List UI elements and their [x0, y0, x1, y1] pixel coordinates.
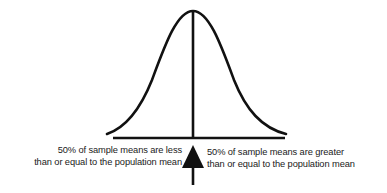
sampling-distribution-diagram: 50% of sample means are less than or equ…	[0, 0, 387, 193]
arrow-up-icon	[182, 145, 204, 185]
left-annotation-line1: 50% of sample means are less	[34, 144, 182, 156]
right-annotation-line2: than or equal to the population mean	[207, 158, 355, 170]
normal-curve	[107, 11, 286, 134]
left-half-annotation: 50% of sample means are less than or equ…	[34, 144, 182, 168]
right-annotation-line1: 50% of sample means are greater	[207, 146, 355, 158]
left-annotation-line2: than or equal to the population mean	[34, 156, 182, 168]
right-half-annotation: 50% of sample means are greater than or …	[207, 146, 355, 170]
